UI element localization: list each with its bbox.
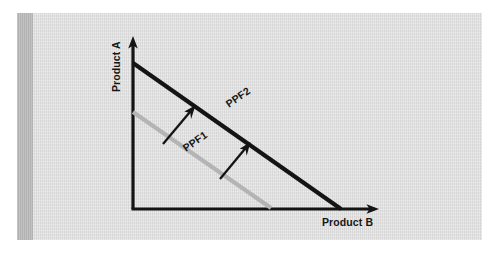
shift-arrow-right: [220, 147, 246, 179]
x-axis-label: Product B: [322, 216, 373, 228]
ppf-diagram-svg: Product A Product B PPF2 PPF1: [0, 0, 498, 254]
figure-page: Product A Product B PPF2 PPF1: [0, 0, 498, 254]
ppf2-label: PPF2: [223, 84, 252, 109]
ppf1-label: PPF1: [180, 128, 209, 153]
ppf1-curve: [133, 112, 271, 208]
y-axis-label: Product A: [110, 41, 122, 92]
